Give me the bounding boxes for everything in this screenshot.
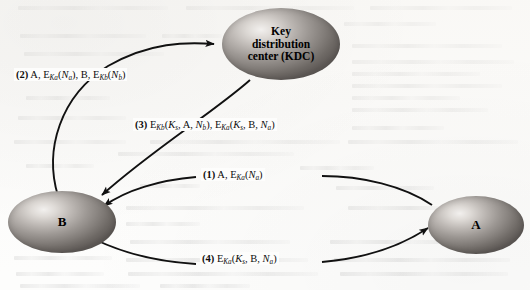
message-label-1: (1) A, EKa(Na): [201, 170, 265, 181]
message-3-nonce-a: N: [196, 119, 203, 130]
message-2-nonce-b-sub: b: [118, 74, 122, 82]
node-kdc-line-2: distribution: [252, 38, 310, 50]
node-kdc-label: Key distribution center (KDC): [248, 25, 315, 64]
message-3-close-b: ): [271, 119, 275, 130]
message-4-close: ): [273, 253, 277, 264]
message-2-sub-key-b: Kb: [99, 74, 107, 82]
message-3-mid-a: , A,: [178, 119, 196, 130]
message-2-sub-key-a: Ka: [50, 74, 58, 82]
arrow-message-1-right-segment: [322, 176, 432, 205]
message-3-number: (3): [135, 119, 147, 130]
message-4-mid: , B,: [245, 253, 263, 264]
node-b[interactable]: B: [8, 191, 116, 253]
node-kdc[interactable]: Key distribution center (KDC): [222, 8, 340, 80]
message-1-text-a: A, E: [217, 169, 236, 180]
node-a-label: A: [471, 218, 480, 233]
arrow-message-4-left-segment: [96, 240, 196, 264]
message-1-nonce-sub: a: [255, 174, 259, 182]
message-label-2: (2) A, EKa(Na), B, EKb(Nb): [14, 70, 127, 81]
message-1-sub-key: Ka: [237, 174, 245, 182]
message-3-close-a: ), E: [206, 119, 221, 130]
message-2-text-a: A, E: [30, 69, 49, 80]
arrow-message-4-right-segment: [322, 228, 428, 262]
node-a[interactable]: A: [428, 196, 524, 254]
node-b-label: B: [58, 215, 67, 230]
message-4-nonce-sub: a: [270, 258, 274, 266]
message-3-session-key-b-sub: s: [240, 124, 243, 132]
message-label-4: (4) EKa(Ks, B, Na): [200, 254, 279, 265]
node-kdc-line-1: Key: [271, 25, 291, 37]
node-kdc-line-3: center (KDC): [248, 50, 315, 62]
message-label-3: (3) EKb(Ks, A, Nb), EKa(Ks, B, Na): [133, 120, 277, 131]
message-3-nonce-b-sub: a: [268, 124, 272, 132]
message-1-close-paren: ): [259, 169, 263, 180]
message-3-nonce-b: N: [261, 119, 268, 130]
message-4-sub-key: Ka: [223, 258, 231, 266]
message-2-close-paren: ): [122, 69, 126, 80]
kdc-protocol-diagram: Key distribution center (KDC) B A (1) A,…: [0, 0, 530, 290]
message-3-sub-key-b: Ka: [221, 124, 229, 132]
message-3-mid-b: , B,: [243, 119, 261, 130]
message-4-number: (4): [202, 253, 214, 264]
message-2-number: (2): [16, 69, 28, 80]
message-3-sub-key-a: Kb: [156, 124, 164, 132]
message-4-session-key-sub: s: [242, 258, 245, 266]
message-2-text-b: ), B, E: [72, 69, 99, 80]
message-1-number: (1): [203, 169, 215, 180]
message-4-nonce: N: [263, 253, 270, 264]
message-2-nonce-a-sub: a: [68, 74, 72, 82]
message-3-session-key-a-sub: s: [175, 124, 178, 132]
message-3-nonce-a-sub: b: [203, 124, 207, 132]
